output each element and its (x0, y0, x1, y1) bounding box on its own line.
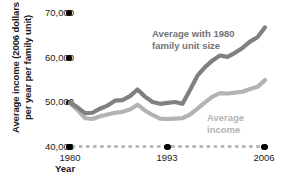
x-axis-title: Year (55, 163, 75, 174)
x-tick-label-2006: 2006 (244, 152, 284, 163)
series-label-average-income: Average income (207, 112, 244, 135)
x-tick-label-1993: 1993 (147, 152, 187, 163)
series-label-average-with-1980-family-unit-size: Average with 1980 family unit size (152, 28, 235, 51)
income-line-chart: Average income (2006 dollars per year pe… (0, 0, 288, 183)
x-tick-label-1980: 1980 (50, 152, 90, 163)
